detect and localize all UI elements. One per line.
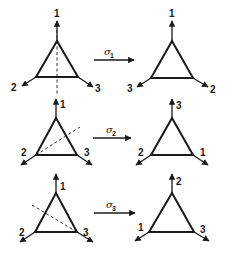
triangle-outline [35,193,77,232]
triangle-outline [151,41,193,78]
operation-subscript: 2 [112,130,116,137]
arrow-down-right-icon [193,78,208,87]
triangle-outline [36,118,77,155]
reflection-diagram: 1 2 3 σ 1 1 3 2 1 2 3 [0,0,229,255]
vertex-label-left: 2 [21,147,27,158]
vertex-label-left: 2 [19,227,25,238]
vertex-label-right: 3 [200,224,206,235]
vertex-label-top: 1 [60,99,66,110]
vertex-label-right: 1 [200,147,206,158]
operation-arrow-3: σ 3 [94,199,135,213]
row-1: 1 2 3 σ 1 1 3 2 [11,8,216,96]
vertex-label-top: 2 [176,176,182,187]
vertex-label-top: 1 [169,8,175,19]
row-2: 1 2 3 σ 2 3 2 1 [21,99,208,165]
triangle-after-1: 1 3 2 [127,8,216,95]
operation-subscript: 1 [110,52,114,59]
triangle-before-2: 1 2 3 [21,99,92,165]
arrow-down-left-icon [137,78,151,87]
row-3: 1 2 3 σ 3 2 1 3 [19,174,209,242]
triangle-outline [151,118,193,155]
vertex-label-top: 3 [176,100,182,111]
vertex-label-left: 2 [138,147,144,158]
arrow-down-left-icon [22,77,36,86]
vertex-label-left: 3 [127,83,133,94]
arrow-down-left-icon [135,232,149,241]
vertex-label-left: 1 [138,222,144,233]
triangle-outline [149,193,194,232]
operation-subscript: 3 [112,205,116,212]
triangle-before-3: 1 2 3 [19,174,93,242]
operation-arrow-2: σ 2 [93,124,131,138]
vertex-label-left: 2 [11,82,17,93]
vertex-label-top: 1 [54,8,60,19]
triangle-after-2: 3 2 1 [136,99,208,165]
vertex-label-right: 3 [83,227,89,238]
vertex-label-top: 1 [60,181,66,192]
triangle-before-1: 1 2 3 [11,8,101,96]
vertex-label-right: 2 [210,84,216,95]
vertex-label-right: 3 [84,147,90,158]
operation-arrow-1: σ 1 [94,46,134,60]
arrow-down-right-icon [78,77,93,87]
triangle-after-3: 2 1 3 [135,174,209,241]
vertex-label-right: 3 [95,83,101,94]
